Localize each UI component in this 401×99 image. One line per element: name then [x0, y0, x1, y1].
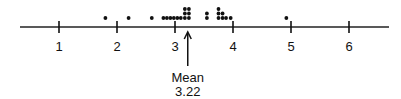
data-point [187, 7, 191, 11]
data-point [150, 16, 154, 20]
tick-label: 2 [113, 39, 120, 54]
data-point [183, 12, 187, 16]
data-point [284, 16, 288, 20]
data-points [104, 7, 289, 20]
mean-label: Mean [171, 70, 204, 85]
tick-label: 5 [287, 39, 294, 54]
data-point [224, 16, 228, 20]
data-point [104, 16, 108, 20]
data-point [217, 16, 221, 20]
axis-ticks: 123456 [55, 21, 352, 54]
data-point [205, 12, 209, 16]
data-point [187, 16, 191, 20]
data-point [221, 16, 225, 20]
mean-arrow [184, 32, 191, 66]
data-point [162, 16, 166, 20]
data-point [175, 16, 179, 20]
data-point [187, 12, 191, 16]
data-point [229, 16, 233, 20]
data-point [221, 12, 225, 16]
data-point [127, 16, 131, 20]
tick-label: 6 [345, 39, 352, 54]
data-point [168, 16, 172, 20]
tick-label: 3 [171, 39, 178, 54]
dot-plot-chart: 123456 Mean 3.22 [0, 0, 401, 99]
data-point [217, 12, 221, 16]
tick-label: 4 [229, 39, 236, 54]
data-point [183, 7, 187, 11]
data-point [217, 7, 221, 11]
data-point [165, 16, 169, 20]
data-point [179, 16, 183, 20]
tick-label: 1 [55, 39, 62, 54]
data-point [172, 16, 176, 20]
data-point [183, 16, 187, 20]
mean-value: 3.22 [175, 84, 200, 99]
data-point [205, 16, 209, 20]
